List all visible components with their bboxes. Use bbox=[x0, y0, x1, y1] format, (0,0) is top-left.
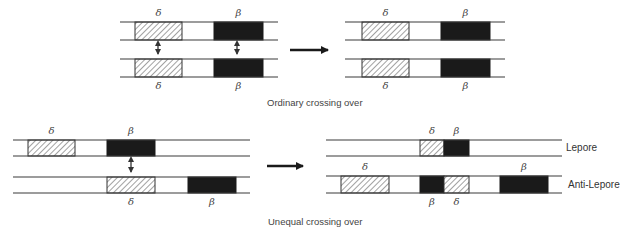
caption-unequal-crossing-over: Unequal crossing over bbox=[268, 217, 363, 227]
delta-gene-label: δ bbox=[453, 197, 459, 207]
beta-gene-box bbox=[441, 22, 490, 40]
beta-gene-box bbox=[107, 140, 155, 156]
beta-gene-box bbox=[441, 59, 490, 77]
beta-gene-box bbox=[188, 177, 236, 193]
label-lepore: Lepore bbox=[566, 143, 597, 153]
beta-gene-label: β bbox=[128, 126, 134, 136]
delta-gene-label: δ bbox=[128, 197, 134, 207]
beta-gene-box bbox=[500, 176, 548, 193]
chromosome-lepore bbox=[326, 140, 562, 156]
transition-arrows bbox=[267, 50, 328, 166]
beta-gene-label: β bbox=[236, 8, 242, 18]
beta-gene-label: β bbox=[454, 126, 460, 136]
delta-gene-box bbox=[28, 140, 75, 156]
delta-gene-label: δ bbox=[429, 126, 435, 136]
delta-gene-label: δ bbox=[362, 162, 368, 172]
panel-ordinary-before bbox=[120, 22, 278, 77]
beta-gene-label: β bbox=[236, 81, 242, 91]
delta-gene-box bbox=[135, 59, 182, 77]
delta-gene-box bbox=[362, 22, 409, 40]
chromosome-2 bbox=[13, 177, 250, 193]
beta-gene-label: β bbox=[429, 197, 435, 207]
delta-gene-label: δ bbox=[382, 8, 388, 18]
delta-gene-label: δ bbox=[382, 81, 388, 91]
beta-gene-label: β bbox=[463, 81, 469, 91]
beta-gene-box bbox=[214, 22, 263, 40]
beta-gene-box bbox=[444, 140, 469, 156]
delta-gene-box bbox=[420, 140, 444, 156]
delta-gene-box bbox=[444, 176, 469, 193]
panel-ordinary-after bbox=[345, 22, 505, 77]
beta-gene-box bbox=[420, 176, 444, 193]
delta-gene-box bbox=[341, 176, 389, 193]
chromosome-1 bbox=[345, 22, 505, 40]
delta-gene-box bbox=[362, 59, 409, 77]
chromosome-1 bbox=[13, 140, 250, 156]
caption-ordinary-crossing-over: Ordinary crossing over bbox=[267, 98, 363, 108]
chromosome-2 bbox=[345, 59, 505, 77]
delta-gene-label: δ bbox=[155, 81, 161, 91]
chromosome-1 bbox=[120, 22, 278, 40]
panel-unequal-before bbox=[13, 140, 250, 193]
beta-gene-label: β bbox=[521, 162, 527, 172]
beta-gene-label: β bbox=[463, 8, 469, 18]
chromosome-2 bbox=[120, 59, 278, 77]
delta-gene-label: δ bbox=[155, 8, 161, 18]
delta-gene-box bbox=[107, 177, 155, 193]
crossing-over-diagram: δβδβδβδβδβδβδβδβδβ Ordinary crossing ove… bbox=[0, 0, 634, 231]
chromosome-anti_lepore bbox=[326, 176, 562, 193]
diagram-canvas bbox=[0, 0, 634, 231]
label-anti-lepore: Anti-Lepore bbox=[568, 180, 620, 190]
delta-gene-label: δ bbox=[48, 126, 54, 136]
beta-gene-label: β bbox=[209, 197, 215, 207]
beta-gene-box bbox=[214, 59, 263, 77]
delta-gene-box bbox=[135, 22, 182, 40]
